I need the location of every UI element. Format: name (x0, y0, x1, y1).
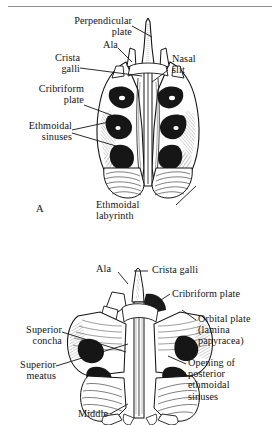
label-crista-galli-panel-a: Crista galli (20, 52, 80, 74)
figure-page: Perpendicular plate Ala Crista galli Cri… (0, 0, 280, 425)
label-superior-meatus: Superior meatus (2, 359, 56, 381)
label-orbital-plate: Orbital plate (lamina papyracea) (198, 313, 280, 347)
label-perpendicular-plate: Perpendicular plate (22, 15, 132, 37)
label-cribriform-plate-panel-a: Cribriform plate (14, 83, 84, 105)
label-nasal-slit: Nasal slit (172, 53, 232, 75)
top-divider-rule (8, 6, 272, 7)
label-ala-panel-a: Ala (66, 39, 118, 50)
label-superior-concha: Superior concha (2, 324, 62, 346)
panel-letter-a: A (36, 203, 44, 214)
label-opening-posterior-ethmoidal-sinuses: Opening of posterior ethmoidal sinuses (188, 357, 278, 402)
label-ala-panel-b: Ala (96, 263, 130, 274)
label-cribriform-plate-panel-b: Cribriform plate (172, 288, 280, 299)
label-middle: Middle (46, 408, 108, 419)
label-ethmoidal-labyrinth: Ethmoidal labyrinth (96, 199, 182, 221)
label-ethmoidal-sinuses: Ethmoidal sinuses (4, 120, 72, 142)
label-crista-galli-panel-b: Crista galli (152, 264, 248, 275)
